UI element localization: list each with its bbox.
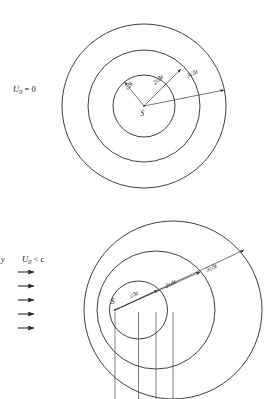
- condition-label-subsonic: U0 < c: [22, 254, 44, 265]
- source-point-stationary: [143, 105, 145, 107]
- ray-3c-dt-stationary: [144, 90, 224, 106]
- panel-subsonic-source: y U0 < c cΔt 2cΔt 3: [0, 221, 262, 399]
- physics-figure-wave-propagation: U0 = 0 cΔt 2cΔt 3cΔt S y U0 < c: [0, 0, 279, 399]
- source-point-subsonic: [114, 309, 116, 311]
- panel-stationary-source: U0 = 0 cΔt 2cΔt 3cΔt S: [13, 24, 226, 188]
- ray-3c-dt-subsonic: [115, 250, 244, 310]
- source-label-stationary: S: [141, 110, 145, 118]
- center-drop-lines: [115, 312, 173, 399]
- ray-label-c-dt-subsonic: cΔt: [128, 289, 139, 299]
- condition-label-stationary: U0 = 0: [13, 84, 36, 95]
- ray-2c-dt-stationary: [144, 69, 181, 106]
- figure-canvas: U0 = 0 cΔt 2cΔt 3cΔt S y U0 < c: [0, 0, 279, 399]
- ray-label-2c-dt-stationary: 2cΔt: [151, 73, 164, 86]
- source-label-subsonic: S: [111, 298, 115, 306]
- freestream-flow-arrows: [18, 272, 34, 328]
- ray-label-2c-dt-subsonic: 2cΔt: [163, 278, 177, 289]
- axis-label-y: y: [0, 255, 5, 264]
